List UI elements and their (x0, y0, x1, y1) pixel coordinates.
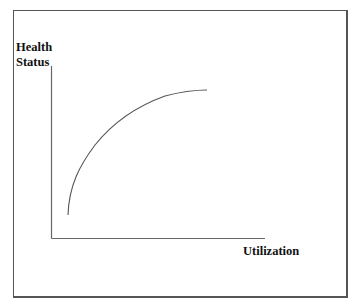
diagram-canvas (0, 0, 363, 308)
x-axis-label: Utilization (243, 244, 299, 259)
utilization-curve (68, 90, 207, 215)
